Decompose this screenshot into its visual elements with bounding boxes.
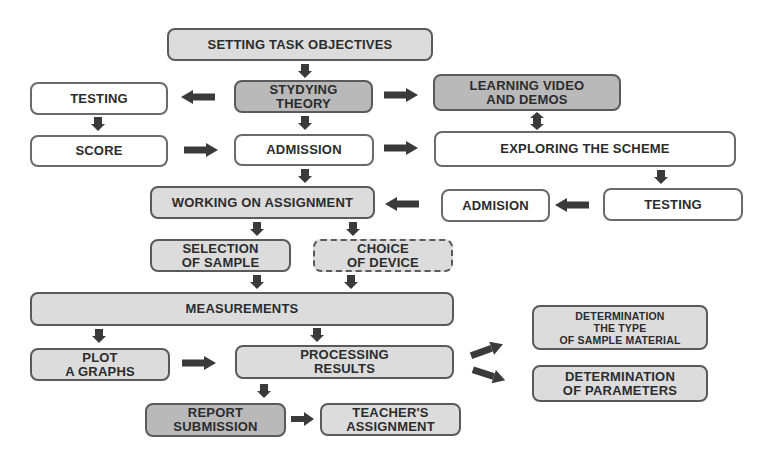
- node-stydying-theory: STYDYING THEORY: [234, 80, 373, 113]
- arrow-left-icon: [385, 197, 419, 211]
- arrow-left-icon: [555, 198, 589, 212]
- arrow-left-icon: [181, 90, 215, 104]
- node-working-on-assignment: WORKING ON ASSIGNMENT: [150, 186, 375, 219]
- node-choice-of-device: CHOICE OF DEVICE: [313, 239, 453, 272]
- arrow-right-icon: [184, 143, 218, 157]
- arrow-down-icon: [250, 275, 264, 289]
- arrow-right-icon: [182, 356, 216, 370]
- node-testing-left: TESTING: [30, 82, 168, 115]
- node-admission: ADMISSION: [234, 134, 374, 166]
- node-setting-task-objectives: SETTING TASK OBJECTIVES: [167, 28, 433, 61]
- node-testing-right: TESTING: [603, 188, 743, 221]
- node-determination-of-parameters: DETERMINATION OF PARAMETERS: [532, 365, 708, 402]
- node-plot-a-graphs: PLOT A GRAPHS: [30, 348, 170, 381]
- arrow-down-icon: [257, 384, 271, 398]
- arrow-down-icon: [298, 169, 312, 183]
- arrow-down-icon: [298, 64, 312, 78]
- arrow-down-icon: [298, 116, 312, 130]
- node-admision-right: ADMISION: [441, 189, 550, 222]
- node-selection-of-sample: SELECTION OF SAMPLE: [150, 239, 291, 272]
- node-teachers-assignment: TEACHER'S ASSIGNMENT: [320, 403, 461, 436]
- node-exploring-the-scheme: EXPLORING THE SCHEME: [434, 131, 736, 167]
- arrow-right-icon: [384, 141, 418, 155]
- arrow-right-icon: [291, 412, 314, 426]
- arrow-down-icon: [654, 170, 668, 184]
- arrow-down-icon: [344, 275, 358, 289]
- node-processing-results: PROCESSING RESULTS: [235, 345, 454, 379]
- arrow-down-icon: [91, 117, 105, 131]
- arrow-down-icon: [92, 329, 106, 343]
- arrow-diagonal-down-icon: [471, 363, 508, 387]
- arrow-diagonal-up-icon: [469, 338, 506, 363]
- arrow-down-icon: [346, 222, 360, 236]
- arrow-down-icon: [250, 222, 264, 236]
- node-measurements: MEASUREMENTS: [30, 292, 454, 326]
- node-learning-video-and-demos: LEARNING VIDEO AND DEMOS: [433, 74, 621, 111]
- arrow-right-icon: [384, 88, 418, 102]
- node-report-submission: REPORT SUBMISSION: [145, 403, 286, 437]
- node-score: SCORE: [30, 135, 168, 167]
- arrow-down-icon: [310, 328, 324, 342]
- node-determination-type-of-sample-material: DETERMINATION THE TYPE OF SAMPLE MATERIA…: [532, 305, 708, 350]
- arrow-updown-icon: [530, 112, 544, 130]
